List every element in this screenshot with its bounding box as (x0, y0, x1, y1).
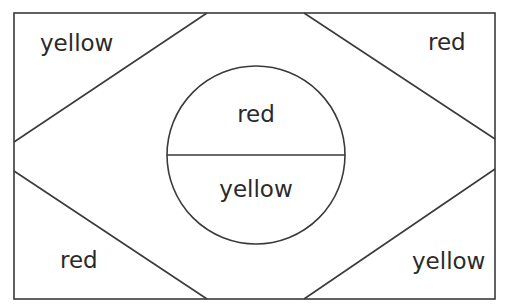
label-top-left: yellow (40, 30, 113, 56)
label-circle-bottom: yellow (219, 176, 292, 202)
flag-diagram: yellow red red yellow red yellow (0, 0, 506, 308)
diagonal-top-right (304, 13, 495, 139)
diagonal-bottom-left (14, 171, 207, 299)
label-bottom-right: yellow (412, 248, 485, 274)
label-bottom-left: red (60, 247, 98, 273)
diagonal-bottom-right (304, 169, 495, 299)
label-top-right: red (428, 29, 466, 55)
label-circle-top: red (237, 101, 275, 127)
